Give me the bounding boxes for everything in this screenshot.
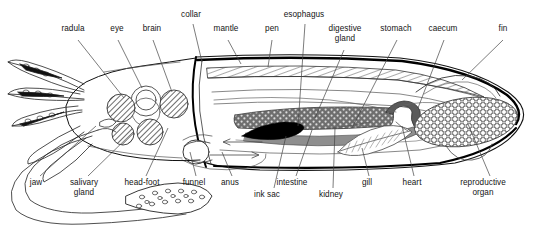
label-radula: radula (61, 24, 84, 34)
leader-anus (222, 152, 232, 176)
label-digestive-gland-line2: gland (329, 34, 362, 44)
leader-jaw (40, 126, 96, 176)
label-head-foot: head-foot (124, 178, 159, 188)
label-brain: brain (143, 24, 161, 34)
leader-mantle (228, 40, 241, 64)
leader-eye (118, 40, 142, 88)
label-collar: collar (181, 10, 201, 20)
label-reproductive-organ: reproductive organ (460, 178, 506, 197)
diagram-artwork (0, 0, 540, 238)
label-anus: anus (221, 178, 239, 188)
radula-shape (107, 94, 135, 122)
label-caecum: caecum (429, 24, 458, 34)
brain-shape (160, 90, 188, 118)
label-heart: heart (403, 178, 422, 188)
jaw-shape (100, 119, 116, 127)
label-ink-sac: ink sac (254, 190, 280, 200)
arms-group (8, 60, 92, 182)
label-eye: eye (110, 24, 123, 34)
label-kidney: kidney (319, 190, 343, 200)
leader-caecum (418, 40, 444, 108)
label-digestive-gland: digestive gland (329, 24, 362, 43)
leader-radula (78, 40, 124, 98)
label-reproductive-organ-line2: organ (460, 188, 506, 198)
label-stomach: stomach (380, 24, 411, 34)
salivary-gland-shape (137, 119, 163, 145)
label-esophagus: esophagus (284, 10, 325, 20)
label-pen: pen (265, 24, 279, 34)
leader-collar (193, 24, 202, 62)
label-reproductive-organ-line1: reproductive (460, 178, 506, 188)
label-intestine: intestine (277, 178, 308, 188)
label-gill: gill (362, 178, 372, 188)
label-fin: fin (499, 24, 508, 34)
leader-brain (153, 40, 172, 92)
label-salivary-gland-line2: gland (70, 188, 98, 198)
leader-pen (268, 40, 272, 67)
label-salivary-gland-line1: salivary (70, 178, 98, 188)
label-mantle: mantle (214, 24, 239, 34)
squid-anatomy-diagram: radula eye brain collar mantle pen esoph… (0, 0, 540, 238)
label-salivary-gland: salivary gland (70, 178, 98, 197)
label-jaw: jaw (30, 178, 42, 188)
label-digestive-gland-line1: digestive (329, 24, 362, 34)
pen-shape (207, 66, 484, 97)
leader-fin (462, 40, 503, 80)
leader-salivary-gland (88, 132, 133, 176)
label-funnel: funnel (183, 178, 206, 188)
